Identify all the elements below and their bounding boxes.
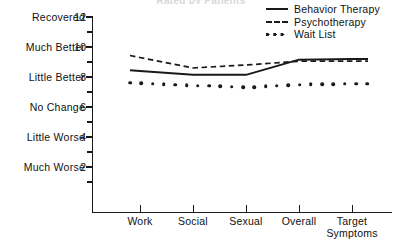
series-marker-wait-list	[253, 85, 257, 89]
series-marker-wait-list	[354, 82, 358, 86]
plot-area	[0, 0, 402, 250]
series-marker-wait-list	[140, 81, 144, 85]
chart-figure: Rated by Patients Behavior Therapy Psych…	[0, 0, 402, 250]
series-marker-wait-list	[275, 84, 279, 88]
series-marker-wait-list	[128, 81, 132, 85]
series-marker-wait-list	[207, 84, 211, 88]
series-marker-wait-list	[241, 86, 245, 90]
series-marker-wait-list	[162, 82, 166, 86]
series-marker-wait-list	[219, 85, 223, 89]
series-marker-wait-list	[309, 83, 313, 87]
series-line-psychotherapy	[130, 56, 368, 69]
series-marker-wait-list	[185, 83, 189, 87]
series-marker-wait-list	[196, 84, 200, 88]
series-marker-wait-list	[343, 82, 347, 86]
series-marker-wait-list	[173, 83, 177, 87]
series-marker-wait-list	[151, 82, 155, 86]
series-marker-wait-list	[332, 82, 336, 86]
series-marker-wait-list	[298, 83, 302, 87]
series-marker-wait-list	[286, 83, 290, 87]
series-marker-wait-list	[320, 82, 324, 86]
series-marker-wait-list	[264, 85, 268, 89]
series-marker-wait-list	[366, 82, 370, 86]
series-marker-wait-list	[230, 85, 234, 89]
